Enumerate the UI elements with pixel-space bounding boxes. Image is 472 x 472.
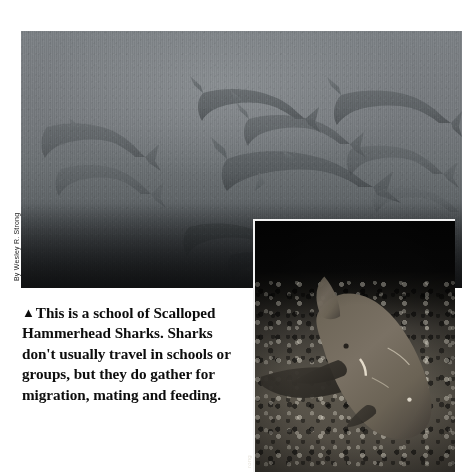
inset-photo-credit: rong (245, 455, 253, 468)
caption-text: This is a school of Scalloped Hammerhead… (22, 304, 231, 403)
inset-photo-nurse-shark (253, 219, 455, 472)
caption-triangle-icon: ▲ (22, 305, 35, 320)
page-canvas: By Wesley R. Strong (0, 0, 472, 472)
inset-vignette (255, 221, 455, 472)
photo-caption: ▲This is a school of Scalloped Hammerhea… (22, 303, 240, 405)
main-photo-credit: By Wesley R. Strong (13, 213, 21, 281)
